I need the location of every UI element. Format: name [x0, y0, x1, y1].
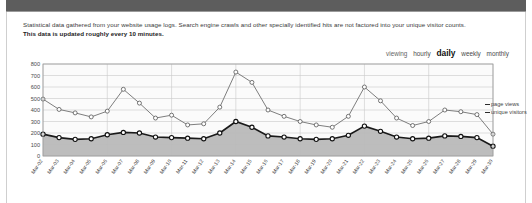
- y-axis-tick-label: 400: [31, 107, 40, 113]
- x-axis-tick-label: Mar-17: [271, 158, 285, 175]
- x-axis-tick-label: Mar-25: [399, 158, 413, 175]
- x-axis-tick-label: Mar-04: [62, 158, 76, 175]
- svg-text:Mar-28: Mar-28: [448, 158, 462, 175]
- svg-text:Mar-05: Mar-05: [78, 158, 92, 175]
- y-axis-tick-label: 800: [31, 61, 40, 67]
- svg-text:Mar-22: Mar-22: [351, 158, 365, 175]
- x-axis-tick-label: Mar-10: [158, 158, 172, 175]
- y-axis-tick-label: 700: [31, 73, 40, 79]
- x-axis-tick-label: Mar-24: [383, 158, 397, 175]
- svg-text:Mar-11: Mar-11: [175, 158, 189, 174]
- svg-text:Mar-02: Mar-02: [30, 158, 44, 175]
- x-axis-tick-label: Mar-20: [319, 158, 333, 175]
- svg-text:Mar-10: Mar-10: [158, 158, 172, 175]
- x-axis-tick-label: Mar-19: [303, 158, 317, 175]
- svg-text:Mar-23: Mar-23: [367, 158, 381, 175]
- x-axis-tick-label: Mar-09: [142, 158, 156, 175]
- viewing-nav: viewing hourly daily weekly monthly: [382, 48, 509, 58]
- svg-text:Mar-04: Mar-04: [62, 158, 76, 175]
- usage-stats-page: Statistical data gathered from your webs…: [0, 0, 532, 203]
- svg-text:Mar-21: Mar-21: [335, 158, 349, 175]
- usage-chart: 0100200300400500600700800Mar-02Mar-03Mar…: [15, 60, 519, 200]
- x-axis-tick-label: Mar-27: [431, 158, 445, 175]
- svg-text:Mar-20: Mar-20: [319, 158, 333, 175]
- intro-line-1: Statistical data gathered from your webs…: [23, 20, 513, 29]
- x-axis-tick-label: Mar-07: [110, 158, 124, 175]
- x-axis-tick-label: Mar-29: [464, 158, 478, 175]
- svg-text:Mar-19: Mar-19: [303, 158, 317, 175]
- x-axis-tick-label: Mar-30: [480, 158, 494, 175]
- legend-label-page-views: page views: [491, 101, 519, 109]
- x-axis-tick-label: Mar-18: [287, 158, 301, 175]
- svg-text:Mar-24: Mar-24: [383, 158, 397, 175]
- intro-text: Statistical data gathered from your webs…: [23, 20, 513, 38]
- usage-chart-svg: 0100200300400500600700800Mar-02Mar-03Mar…: [15, 60, 519, 200]
- y-axis-tick-label: 200: [31, 130, 40, 136]
- x-axis-tick-label: Mar-22: [351, 158, 365, 175]
- viewing-label: viewing: [386, 50, 407, 57]
- legend-line-icon: [485, 104, 490, 105]
- y-axis-tick-label: 600: [31, 84, 40, 90]
- x-axis-tick-label: Mar-08: [126, 158, 140, 175]
- x-axis-tick-label: Mar-26: [415, 158, 429, 175]
- x-axis-tick-label: Mar-03: [46, 158, 60, 175]
- svg-text:Mar-06: Mar-06: [94, 158, 108, 175]
- chart-legend: page views unique visitors: [485, 101, 527, 116]
- svg-text:Mar-25: Mar-25: [399, 158, 413, 175]
- svg-text:Mar-16: Mar-16: [255, 158, 269, 175]
- svg-text:Mar-13: Mar-13: [206, 158, 220, 175]
- svg-text:Mar-26: Mar-26: [415, 158, 429, 175]
- x-axis-tick-label: Mar-28: [448, 158, 462, 175]
- view-option-hourly[interactable]: hourly: [413, 50, 430, 57]
- y-axis-tick-label: 100: [31, 142, 40, 148]
- x-axis-tick-label: Mar-15: [239, 158, 253, 175]
- x-axis-tick-label: Mar-14: [223, 158, 237, 175]
- view-option-weekly[interactable]: weekly: [461, 50, 481, 57]
- intro-line-2: This data is updated roughly every 10 mi…: [23, 29, 513, 38]
- x-axis-tick-label: Mar-16: [255, 158, 269, 175]
- legend-line-icon: [485, 112, 490, 113]
- x-axis-tick-label: Mar-13: [206, 158, 220, 175]
- svg-text:Mar-15: Mar-15: [239, 158, 253, 175]
- svg-text:Mar-03: Mar-03: [46, 158, 60, 175]
- x-axis-tick-label: Mar-02: [30, 158, 44, 175]
- x-axis-tick-label: Mar-12: [190, 158, 204, 175]
- legend-label-unique-visitors: unique visitors: [491, 109, 527, 117]
- svg-text:Mar-27: Mar-27: [431, 158, 445, 175]
- window-header-bar: [6, 0, 526, 12]
- svg-text:Mar-12: Mar-12: [190, 158, 204, 175]
- svg-text:Mar-14: Mar-14: [223, 158, 237, 175]
- x-axis-tick-label: Mar-06: [94, 158, 108, 175]
- svg-text:Mar-09: Mar-09: [142, 158, 156, 175]
- x-axis-tick-label: Mar-11: [175, 158, 189, 174]
- x-axis-tick-label: Mar-23: [367, 158, 381, 175]
- y-axis-tick-label: 300: [31, 119, 40, 125]
- legend-item-unique-visitors: unique visitors: [485, 109, 527, 117]
- x-axis-tick-label: Mar-21: [335, 158, 349, 175]
- content-panel: Statistical data gathered from your webs…: [6, 12, 526, 203]
- svg-text:Mar-29: Mar-29: [464, 158, 478, 175]
- view-option-monthly[interactable]: monthly: [487, 50, 509, 57]
- svg-text:Mar-07: Mar-07: [110, 158, 124, 175]
- svg-text:Mar-08: Mar-08: [126, 158, 140, 175]
- view-option-daily[interactable]: daily: [436, 48, 455, 58]
- x-axis-tick-label: Mar-05: [78, 158, 92, 175]
- svg-text:Mar-18: Mar-18: [287, 158, 301, 175]
- y-axis-tick-label: 500: [31, 96, 40, 102]
- svg-text:Mar-17: Mar-17: [271, 158, 285, 175]
- svg-text:Mar-30: Mar-30: [480, 158, 494, 175]
- legend-item-page-views: page views: [485, 101, 527, 109]
